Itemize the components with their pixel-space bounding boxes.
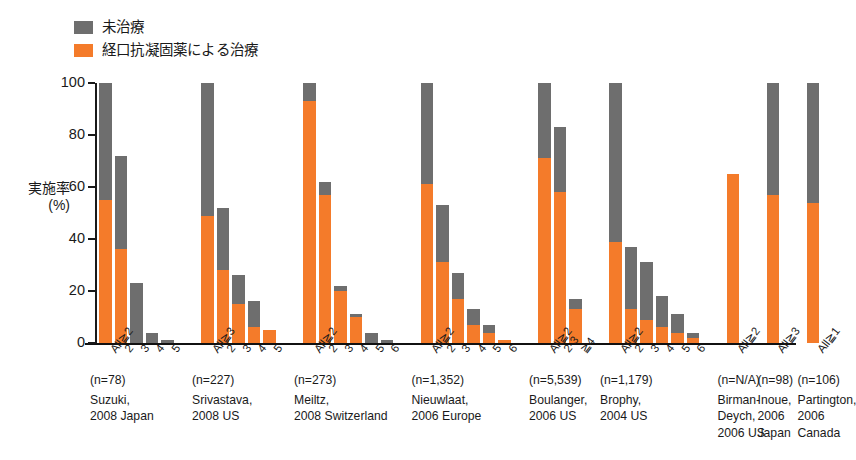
study-author: Boulanger, <box>529 392 587 409</box>
bar-segment-untreated <box>99 83 112 200</box>
y-axis-title-line-2: (%) <box>20 197 70 214</box>
bar-1-1 <box>217 208 230 343</box>
y-tick-label: 60 <box>43 178 85 194</box>
bar-segment-treated <box>319 195 332 343</box>
bar-segment-untreated <box>609 83 622 242</box>
bar-2-0 <box>303 83 316 343</box>
bar-segment-untreated <box>467 309 480 325</box>
study-sample-size: (n=5,539) <box>529 372 587 389</box>
study-author: Suzuki, <box>90 392 154 409</box>
y-tick-label: 20 <box>43 282 85 298</box>
bar-2-3 <box>350 314 363 343</box>
bar-segment-untreated <box>201 83 214 216</box>
study-captions: (n=78)Suzuki,2008 Japan(n=227)Srivastava… <box>0 372 811 458</box>
y-tick-label: 80 <box>43 126 85 142</box>
bar-segment-treated <box>248 327 261 343</box>
study-year-country: 2006 <box>798 408 856 425</box>
bar-segment-untreated <box>671 314 684 332</box>
study-caption: (n=78)Suzuki,2008 Japan <box>90 372 154 425</box>
bar-segment-untreated <box>554 127 567 192</box>
bar-segment-untreated <box>807 83 820 203</box>
y-tick-mark <box>88 342 95 344</box>
study-sample-size: (n=227) <box>192 372 252 389</box>
study-author: Brophy, <box>600 392 653 409</box>
y-tick-label: 0 <box>43 334 85 350</box>
bar-5-3 <box>656 296 669 343</box>
bar-segment-treated <box>467 325 480 343</box>
study-sample-size: (n=98) <box>758 372 794 389</box>
bar-1-0 <box>201 83 214 343</box>
y-tick-label: 100 <box>43 74 85 90</box>
bar-segment-treated <box>99 200 112 343</box>
bar-segment-untreated <box>319 182 332 195</box>
bar-segment-untreated <box>640 262 653 319</box>
y-tick-mark <box>88 290 95 292</box>
bar-6-0 <box>727 174 740 343</box>
y-tick-mark <box>88 186 95 188</box>
bar-segment-untreated <box>303 83 316 101</box>
bar-segment-treated <box>609 242 622 343</box>
study-caption: (n=227)Srivastava,2008 US <box>192 372 252 425</box>
study-author: Nieuwlaat, <box>412 392 482 409</box>
study-caption: (n=98)Inoue,2006Japan <box>758 372 794 441</box>
bar-segment-untreated <box>483 325 496 333</box>
y-tick-mark <box>88 134 95 136</box>
bar-segment-treated <box>538 158 551 343</box>
study-year-country: 2006 <box>758 408 794 425</box>
study-author: Srivastava, <box>192 392 252 409</box>
study-author: Inoue, <box>758 392 794 409</box>
bar-4-1 <box>554 127 567 343</box>
bar-segment-treated <box>807 203 820 343</box>
bar-0-0 <box>99 83 112 343</box>
study-year-country: 2006 Europe <box>412 408 482 425</box>
legend-label-untreated: 未治療 <box>102 20 145 34</box>
bar-segment-treated <box>350 317 363 343</box>
legend-item-treated: 経口抗凝固薬による治療 <box>74 40 258 60</box>
plot-area <box>96 83 796 343</box>
bar-1-3 <box>248 301 261 343</box>
study-author: Partington, <box>798 392 856 409</box>
study-country: Japan <box>758 425 794 442</box>
bar-3-1 <box>436 205 449 343</box>
bar-4-0 <box>538 83 551 343</box>
study-sample-size: (n=78) <box>90 372 154 389</box>
bar-segment-untreated <box>232 275 245 304</box>
bar-segment-untreated <box>115 156 128 250</box>
study-sample-size: (n=273) <box>294 372 388 389</box>
bar-segment-untreated <box>625 247 638 309</box>
study-year-country: 2008 US <box>192 408 252 425</box>
study-year-country: 2006 US <box>529 408 587 425</box>
bar-segment-untreated <box>656 296 669 327</box>
study-sample-size: (n=1,179) <box>600 372 653 389</box>
study-caption: (n=1,352)Nieuwlaat,2006 Europe <box>412 372 482 425</box>
y-tick-mark <box>88 238 95 240</box>
bar-segment-untreated <box>421 83 434 184</box>
bar-5-0 <box>609 83 622 343</box>
study-sample-size: (n=106) <box>798 372 856 389</box>
study-caption: (n=273)Meiltz,2008 Switzerland <box>294 372 388 425</box>
study-caption: (n=1,179)Brophy,2004 US <box>600 372 653 425</box>
bar-segment-treated <box>656 327 669 343</box>
bar-segment-treated <box>727 174 740 343</box>
bar-segment-treated <box>554 192 567 343</box>
legend-label-treated: 経口抗凝固薬による治療 <box>102 43 258 57</box>
bar-0-1 <box>115 156 128 343</box>
bar-8-0 <box>807 83 820 343</box>
bar-segment-untreated <box>217 208 230 270</box>
bar-2-1 <box>319 182 332 343</box>
gray-square-swatch <box>74 21 93 34</box>
study-year-country: 2008 Japan <box>90 408 154 425</box>
legend-item-untreated: 未治療 <box>74 17 258 37</box>
study-author: Meiltz, <box>294 392 388 409</box>
bar-3-4 <box>483 325 496 343</box>
bar-1-4 <box>263 330 276 343</box>
bar-segment-treated <box>201 216 214 343</box>
study-country: Canada <box>798 425 856 442</box>
bar-segment-untreated <box>248 301 261 327</box>
bar-segment-untreated <box>538 83 551 158</box>
study-sample-size: (n=1,352) <box>412 372 482 389</box>
bar-segment-treated <box>767 195 780 343</box>
study-year-country: 2008 Switzerland <box>294 408 388 425</box>
study-caption: (n=5,539)Boulanger,2006 US <box>529 372 587 425</box>
